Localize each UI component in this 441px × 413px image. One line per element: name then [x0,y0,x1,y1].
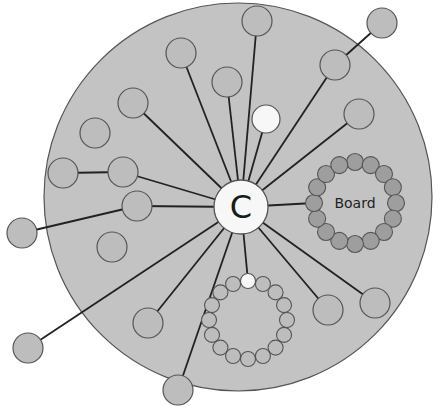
node-n3[interactable] [320,50,350,80]
committee-member[interactable] [268,285,283,300]
board-member[interactable] [384,179,401,196]
node-n16[interactable] [13,333,43,363]
node-n1[interactable] [166,38,196,68]
committee-member[interactable] [268,340,283,355]
committee-member[interactable] [255,276,270,291]
node-n12[interactable] [122,191,152,221]
board-member[interactable] [306,195,323,212]
board-member[interactable] [347,154,364,171]
network-diagram: Board C [0,0,441,413]
node-n15[interactable] [133,308,163,338]
node-n14[interactable] [97,232,127,262]
committee-member[interactable] [280,313,295,328]
node-n18[interactable] [313,295,343,325]
node-n5[interactable] [212,67,242,97]
committee-member[interactable] [277,298,292,313]
board-member[interactable] [362,232,379,249]
node-n6[interactable] [118,88,148,118]
center-node: C [214,180,268,234]
center-node-label: C [230,188,252,226]
board-member[interactable] [388,195,405,212]
committee-member[interactable] [241,274,256,289]
committee-member[interactable] [226,276,241,291]
node-n4[interactable] [367,8,397,38]
node-n2[interactable] [242,6,272,36]
committee-member[interactable] [255,349,270,364]
board-ring: Board [306,154,405,253]
node-n17[interactable] [163,375,193,405]
committee-member[interactable] [213,340,228,355]
node-n7[interactable] [252,105,280,133]
committee-member[interactable] [213,285,228,300]
node-n11[interactable] [108,157,138,187]
committee-member[interactable] [277,327,292,342]
node-n10[interactable] [48,158,78,188]
committee-member[interactable] [202,313,217,328]
node-n9[interactable] [80,118,110,148]
committee-member[interactable] [241,352,256,367]
board-member[interactable] [331,157,348,174]
board-label: Board [334,195,375,211]
board-member[interactable] [309,210,326,227]
board-member[interactable] [347,236,364,253]
node-n13[interactable] [7,218,37,248]
node-n19[interactable] [360,288,390,318]
committee-member[interactable] [204,327,219,342]
committee-member[interactable] [226,349,241,364]
committee-member[interactable] [204,298,219,313]
node-n8[interactable] [344,99,374,129]
